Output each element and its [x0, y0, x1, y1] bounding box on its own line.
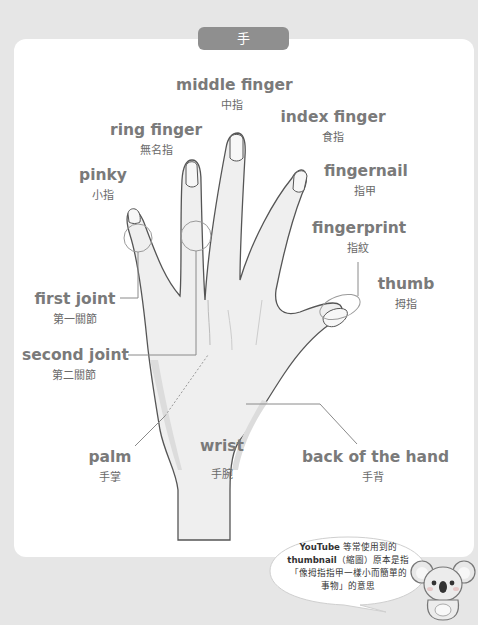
label-second-joint: second joint 第二關節: [22, 346, 126, 384]
title-pill: 手: [198, 27, 289, 50]
label-thumb: thumb 拇指: [376, 275, 436, 313]
label-ring-finger: ring finger 無名指: [110, 121, 202, 159]
label-back-of-the-hand: back of the hand 手背: [302, 448, 444, 486]
thumbnail-note: YouTube 等常使用到的 thumbnail（縮圖）原本是指 「像拇指指甲一…: [276, 541, 420, 593]
label-palm: palm 手掌: [84, 448, 136, 486]
label-index-finger: index finger 食指: [280, 108, 386, 146]
nail-middle: [230, 134, 243, 161]
nail-ring: [186, 162, 198, 187]
koala-icon: [410, 556, 476, 622]
label-middle-finger: middle finger 中指: [176, 76, 288, 114]
label-wrist: wrist 手腕: [196, 437, 248, 483]
label-fingernail: fingernail 指甲: [324, 162, 406, 200]
nail-pinky: [128, 209, 140, 224]
label-fingerprint: fingerprint 指紋: [312, 219, 404, 257]
label-pinky: pinky 小指: [76, 166, 130, 204]
label-first-joint: first joint 第一關節: [34, 290, 116, 328]
